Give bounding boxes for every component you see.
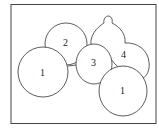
label-region-2: 2 bbox=[63, 37, 68, 48]
label-region-1-right: 1 bbox=[120, 85, 125, 96]
label-region-1-left: 1 bbox=[40, 67, 45, 78]
label-region-3: 3 bbox=[91, 57, 96, 68]
diagram-canvas: 1 2 3 4 1 bbox=[0, 0, 159, 130]
label-region-4: 4 bbox=[121, 49, 126, 60]
